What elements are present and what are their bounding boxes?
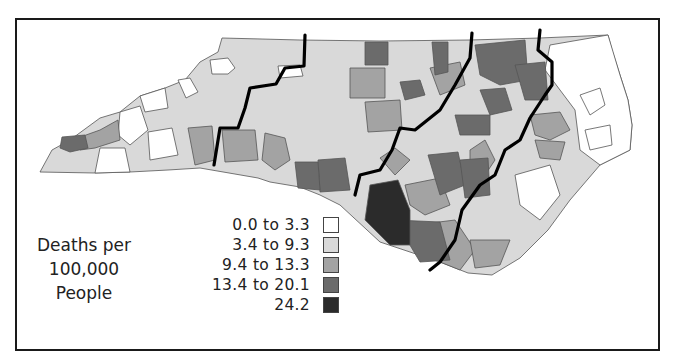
legend-title-line: 100,000 — [28, 257, 140, 281]
legend-label: 0.0 to 3.3 — [232, 215, 310, 235]
legend-label: 24.2 — [274, 295, 310, 315]
legend: 0.0 to 3.3 3.4 to 9.3 9.4 to 13.3 13.4 t… — [190, 215, 350, 315]
legend-label: 13.4 to 20.1 — [212, 275, 310, 295]
legend-swatch — [323, 217, 339, 233]
legend-swatch — [323, 237, 339, 253]
legend-title: Deaths per 100,000 People — [28, 233, 140, 305]
legend-swatch — [323, 277, 339, 293]
legend-label: 3.4 to 9.3 — [232, 235, 310, 255]
legend-item: 3.4 to 9.3 — [190, 235, 350, 255]
legend-item: 13.4 to 20.1 — [190, 275, 350, 295]
legend-swatch — [323, 257, 339, 273]
legend-title-line: People — [28, 281, 140, 305]
legend-label: 9.4 to 13.3 — [222, 255, 310, 275]
legend-item: 9.4 to 13.3 — [190, 255, 350, 275]
legend-item: 0.0 to 3.3 — [190, 215, 350, 235]
legend-title-line: Deaths per — [28, 233, 140, 257]
legend-swatch — [323, 297, 339, 313]
legend-item: 24.2 — [190, 295, 350, 315]
